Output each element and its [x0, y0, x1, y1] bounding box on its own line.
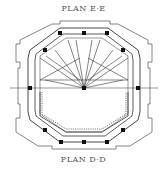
outer-outline	[16, 21, 152, 149]
octagon-outer-wall	[28, 28, 140, 142]
floor-plan-lower	[40, 92, 128, 132]
octagonal-plan-drawing	[0, 0, 167, 169]
plan-d-d-label: PLAN D·D	[0, 155, 167, 164]
roof-framing	[40, 40, 128, 88]
octagon-inner-line	[40, 38, 128, 132]
